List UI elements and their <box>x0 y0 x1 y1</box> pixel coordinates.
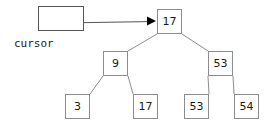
tree-node-value: 17 <box>139 101 153 112</box>
tree-node-value: 3 <box>74 101 81 112</box>
tree-edge-n9-l3 <box>90 76 103 94</box>
tree-node-l53[interactable]: 53 <box>184 94 209 119</box>
tree-edge-root-n9 <box>128 34 157 51</box>
tree-edge-root-n53 <box>182 34 208 51</box>
tree-diagram-canvas: cursor 179533175354 <box>0 0 276 125</box>
tree-node-value: 53 <box>214 58 228 69</box>
tree-edge-n53-l54 <box>233 76 234 94</box>
tree-node-value: 17 <box>163 16 177 27</box>
tree-node-l54[interactable]: 54 <box>234 94 259 119</box>
tree-node-l3[interactable]: 3 <box>65 94 90 119</box>
tree-node-n9[interactable]: 9 <box>103 51 128 76</box>
tree-node-value: 53 <box>190 101 204 112</box>
tree-node-root[interactable]: 17 <box>157 9 182 34</box>
cursor-box[interactable] <box>38 6 84 31</box>
tree-edge-n53-l53 <box>208 76 209 94</box>
tree-node-value: 9 <box>112 58 119 69</box>
tree-node-value: 54 <box>240 101 254 112</box>
tree-node-n53[interactable]: 53 <box>208 51 233 76</box>
cursor-arrowhead-icon <box>147 17 156 26</box>
tree-node-l17[interactable]: 17 <box>133 94 158 119</box>
cursor-label: cursor <box>14 38 54 49</box>
tree-edge-n9-l17 <box>128 76 133 94</box>
